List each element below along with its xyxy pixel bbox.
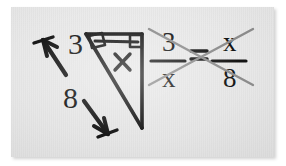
cross-multiply-x <box>149 29 253 85</box>
scanned-paper-clipping: 3 8 <box>11 7 274 157</box>
triangle-interior-label-x <box>115 54 130 70</box>
arrow-down-right <box>84 101 117 137</box>
screenshot-root: 3 8 <box>0 0 286 166</box>
length-label-lower: 8 <box>63 81 78 114</box>
right-fraction-denominator: 8 <box>223 63 237 93</box>
length-label-upper: 3 <box>68 27 83 60</box>
math-figure: 3 8 <box>11 7 274 157</box>
arrow-up-left <box>34 37 66 75</box>
